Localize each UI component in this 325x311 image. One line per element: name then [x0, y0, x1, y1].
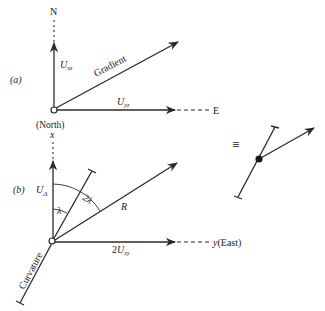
- principal-axis-tick: [88, 169, 96, 173]
- glyph-center-dot: [255, 155, 262, 162]
- uyz-label: Uyz: [117, 96, 130, 108]
- origin-a-marker: [51, 107, 57, 113]
- u-delta-label: UΔ: [36, 184, 47, 198]
- origin-b-marker: [49, 238, 55, 244]
- x-axis-label: x: [49, 129, 55, 140]
- y-axis-label: y(East): [212, 237, 241, 249]
- panel-a: (a) N Uxz Gradient E Uyz (North): [10, 6, 219, 131]
- diagram-canvas: (a) N Uxz Gradient E Uyz (North) x (b) U…: [0, 0, 325, 311]
- lambda-label: λ: [56, 205, 62, 216]
- east-label: E: [213, 105, 219, 116]
- glyph-axis-line: [238, 127, 275, 197]
- vector-diagram: (a) N Uxz Gradient E Uyz (North) x (b) U…: [0, 0, 325, 311]
- curvature-tick: [16, 301, 24, 305]
- panel-a-label: (a): [10, 74, 22, 86]
- uxz-label: Uxz: [60, 59, 73, 71]
- panel-b: x (b) UΔ Curvature R λ 2λ y(East) 2Uxy: [13, 129, 241, 305]
- panel-b-label: (b): [13, 184, 25, 196]
- north-label: N: [50, 6, 57, 17]
- two-uxy-label: 2Uxy: [112, 244, 130, 256]
- glyph-resultant-arrow: [259, 128, 314, 159]
- gradient-label: Gradient: [92, 53, 128, 79]
- resultant-vector-arrow: [55, 163, 177, 240]
- equivalent-glyph-group: ≡: [232, 126, 314, 199]
- equivalence-symbol: ≡: [232, 137, 239, 152]
- resultant-label: R: [120, 201, 127, 212]
